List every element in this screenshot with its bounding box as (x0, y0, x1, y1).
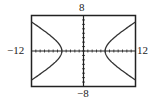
graph-window (0, 0, 154, 100)
